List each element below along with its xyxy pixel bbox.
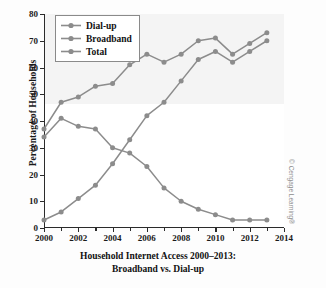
x-tick-mark (284, 228, 285, 232)
data-point (162, 100, 167, 105)
x-tick-mark (215, 228, 216, 232)
data-point (196, 207, 201, 212)
y-tick-label: 80 (29, 9, 38, 19)
data-point (144, 164, 149, 169)
x-tick-mark-minor (233, 228, 234, 231)
x-tick-label: 2010 (206, 233, 224, 243)
x-tick-mark (113, 228, 114, 232)
data-point (93, 183, 98, 188)
data-point (196, 57, 201, 62)
data-point (42, 135, 47, 140)
x-tick-label: 2002 (69, 233, 87, 243)
data-point (59, 209, 64, 214)
data-point (162, 185, 167, 190)
data-point (230, 60, 235, 65)
y-tick-label: 0 (34, 223, 39, 233)
x-tick-mark (250, 228, 251, 232)
data-point (179, 52, 184, 57)
y-tick-label: 60 (29, 63, 38, 73)
legend-item-total[interactable]: Total (60, 45, 132, 58)
data-point (144, 52, 149, 57)
legend-marker-icon (60, 20, 82, 31)
data-point (213, 36, 218, 41)
data-point (196, 38, 201, 43)
series-line (44, 118, 267, 220)
data-point (247, 41, 252, 46)
legend-label: Dial-up (86, 21, 117, 31)
x-tick-mark-minor (198, 228, 199, 231)
x-tick-label: 2012 (241, 233, 259, 243)
y-tick-label: 30 (29, 143, 38, 153)
y-tick-label: 50 (29, 89, 38, 99)
data-point (110, 81, 115, 86)
data-point (144, 113, 149, 118)
data-point (264, 38, 269, 43)
x-tick-mark (181, 228, 182, 232)
data-point (230, 52, 235, 57)
x-tick-mark-minor (267, 228, 268, 231)
data-point (93, 127, 98, 132)
data-point (230, 217, 235, 222)
data-point (76, 196, 81, 201)
chart-legend: Dial-up Broadband Total (55, 15, 140, 62)
legend-item-dial-up[interactable]: Dial-up (60, 19, 132, 32)
x-tick-label: 2014 (275, 233, 293, 243)
series-broadband (42, 38, 270, 222)
data-point (264, 217, 269, 222)
chart-title: Household Internet Access 2000–2013: Bro… (28, 250, 288, 276)
chart-title-line-2: Broadband vs. Dial-up (28, 263, 288, 276)
data-point (247, 49, 252, 54)
x-tick-mark (78, 228, 79, 232)
x-tick-mark-minor (95, 228, 96, 231)
x-tick-mark (44, 228, 45, 232)
x-tick-label: 2008 (172, 233, 190, 243)
y-tick-label: 10 (29, 196, 38, 206)
legend-label: Broadband (86, 34, 132, 44)
data-point (179, 78, 184, 83)
x-tick-mark (147, 228, 148, 232)
data-point (59, 100, 64, 105)
y-axis-title: Percentage of Households (28, 18, 38, 208)
chart-title-line-1: Household Internet Access 2000–2013: (28, 250, 288, 263)
data-point (93, 84, 98, 89)
legend-marker-icon (60, 46, 82, 57)
data-point (247, 217, 252, 222)
data-point (127, 151, 132, 156)
data-point (59, 116, 64, 121)
x-tick-label: 2004 (104, 233, 122, 243)
data-point (213, 49, 218, 54)
data-point (110, 145, 115, 150)
data-point (110, 161, 115, 166)
data-point (127, 137, 132, 142)
y-tick-label: 70 (29, 36, 38, 46)
legend-label: Total (86, 47, 107, 57)
x-tick-label: 2006 (138, 233, 156, 243)
data-point (42, 217, 47, 222)
chart-figure: Percentage of Households 010203040506070… (0, 0, 326, 288)
y-tick-label: 20 (29, 170, 38, 180)
x-tick-label: 2000 (35, 233, 53, 243)
y-tick-label: 40 (29, 116, 38, 126)
x-tick-mark-minor (164, 228, 165, 231)
data-point (127, 62, 132, 67)
x-tick-mark-minor (61, 228, 62, 231)
legend-item-broadband[interactable]: Broadband (60, 32, 132, 45)
data-point (264, 30, 269, 35)
x-tick-mark-minor (130, 228, 131, 231)
data-point (76, 94, 81, 99)
copyright-credit: © Cengage Learning® (288, 159, 295, 224)
data-point (213, 212, 218, 217)
series-line (44, 41, 267, 220)
legend-marker-icon (60, 33, 82, 44)
data-point (179, 199, 184, 204)
data-point (42, 127, 47, 132)
data-point (162, 60, 167, 65)
data-point (76, 124, 81, 129)
series-dial-up (42, 116, 270, 223)
